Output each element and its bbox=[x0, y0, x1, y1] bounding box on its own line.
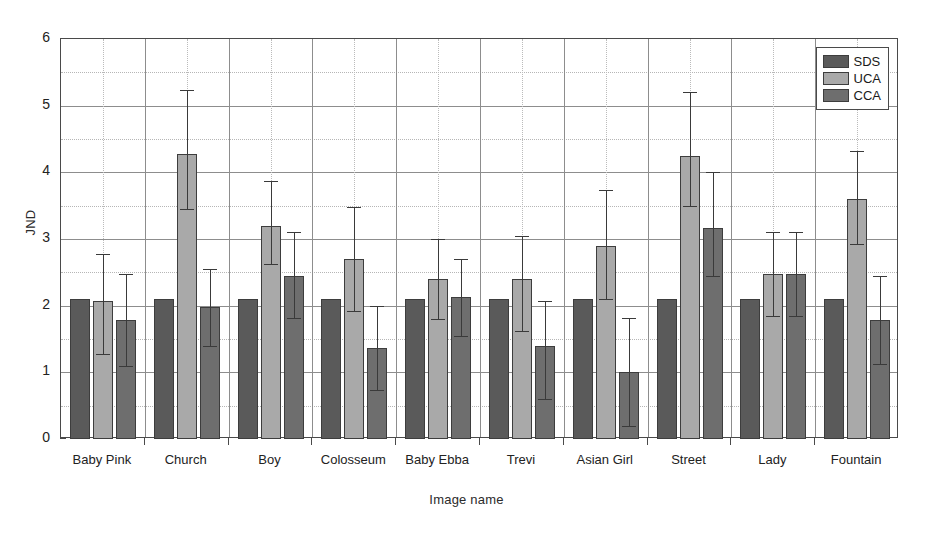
error-bar-cap-upper bbox=[264, 181, 278, 182]
error-bar-line bbox=[210, 269, 211, 346]
bar-sds bbox=[321, 299, 341, 439]
error-bar-line bbox=[545, 301, 546, 399]
error-bar-cap-upper bbox=[789, 232, 803, 233]
error-bar-cap-upper bbox=[683, 92, 697, 93]
error-bar-cap-upper bbox=[347, 207, 361, 208]
error-bar-cap-upper bbox=[454, 259, 468, 260]
error-bar-cap-lower bbox=[347, 311, 361, 312]
x-tick-mark bbox=[814, 438, 815, 445]
y-tick-label: 1 bbox=[0, 362, 50, 378]
x-tick-label: Lady bbox=[758, 452, 786, 467]
legend-swatch-cca bbox=[823, 89, 849, 102]
error-bar-cap-lower bbox=[96, 354, 110, 355]
x-tick-mark bbox=[395, 438, 396, 445]
bar-sds bbox=[70, 299, 90, 439]
x-tick-label: Trevi bbox=[507, 452, 535, 467]
x-tick-mark bbox=[730, 438, 731, 445]
error-bar-cap-upper bbox=[538, 301, 552, 302]
legend-label: UCA bbox=[854, 72, 881, 85]
error-bar-cap-lower bbox=[370, 390, 384, 391]
error-bar-cap-lower bbox=[622, 426, 636, 427]
y-tick-label: 4 bbox=[0, 162, 50, 178]
x-tick-mark bbox=[563, 438, 564, 445]
x-tick-mark bbox=[228, 438, 229, 445]
error-bar-cap-upper bbox=[119, 274, 133, 275]
error-bar-cap-lower bbox=[538, 399, 552, 400]
error-bar-line bbox=[796, 232, 797, 315]
bar-sds bbox=[405, 299, 425, 439]
legend-label: SDS bbox=[854, 55, 881, 68]
y-tick-label: 3 bbox=[0, 229, 50, 245]
legend-label: CCA bbox=[854, 89, 881, 102]
error-bar-line bbox=[187, 90, 188, 209]
y-tick-label: 2 bbox=[0, 296, 50, 312]
error-bar-line bbox=[461, 259, 462, 336]
error-bar-line bbox=[690, 92, 691, 205]
x-tick-mark bbox=[311, 438, 312, 445]
error-bar-line bbox=[522, 236, 523, 331]
error-bar-cap-lower bbox=[515, 331, 529, 332]
bar-sds bbox=[824, 299, 844, 439]
gridline-major-x bbox=[731, 39, 732, 437]
gridline-major-x bbox=[648, 39, 649, 437]
legend-item-uca: UCA bbox=[823, 70, 881, 87]
error-bar-line bbox=[103, 254, 104, 354]
error-bar-cap-lower bbox=[599, 299, 613, 300]
error-bar-line bbox=[857, 151, 858, 244]
error-bar-line bbox=[126, 274, 127, 365]
error-bar-line bbox=[773, 232, 774, 315]
error-bar-line bbox=[438, 239, 439, 319]
error-bar-cap-lower bbox=[203, 346, 217, 347]
error-bar-line bbox=[880, 276, 881, 364]
gridline-major-x bbox=[229, 39, 230, 437]
x-tick-label: Boy bbox=[258, 452, 280, 467]
x-tick-label: Baby Ebba bbox=[405, 452, 469, 467]
x-axis-label: Image name bbox=[0, 492, 933, 507]
error-bar-cap-lower bbox=[264, 264, 278, 265]
x-tick-mark bbox=[479, 438, 480, 445]
error-bar-line bbox=[713, 172, 714, 275]
error-bar-cap-lower bbox=[454, 336, 468, 337]
y-tick-label: 6 bbox=[0, 29, 50, 45]
error-bar-line bbox=[294, 232, 295, 317]
gridline-major-x bbox=[480, 39, 481, 437]
error-bar-cap-lower bbox=[873, 364, 887, 365]
error-bar-line bbox=[629, 318, 630, 426]
gridline-major-x bbox=[396, 39, 397, 437]
error-bar-cap-upper bbox=[873, 276, 887, 277]
gridline-major-x bbox=[312, 39, 313, 437]
error-bar-cap-upper bbox=[431, 239, 445, 240]
x-tick-label: Fountain bbox=[831, 452, 882, 467]
gridline-major-x bbox=[145, 39, 146, 437]
error-bar-line bbox=[377, 306, 378, 391]
legend-item-cca: CCA bbox=[823, 87, 881, 104]
figure-canvas: JND Image name 0123456 Baby PinkChurchBo… bbox=[0, 0, 933, 534]
error-bar-cap-lower bbox=[706, 276, 720, 277]
y-tick-label: 5 bbox=[0, 96, 50, 112]
x-tick-label: Colosseum bbox=[321, 452, 386, 467]
legend-item-sds: SDS bbox=[823, 53, 881, 70]
x-tick-label: Asian Girl bbox=[577, 452, 633, 467]
error-bar-cap-lower bbox=[789, 316, 803, 317]
error-bar-cap-lower bbox=[850, 244, 864, 245]
x-tick-label: Church bbox=[165, 452, 207, 467]
error-bar-cap-upper bbox=[706, 172, 720, 173]
bar-sds bbox=[657, 299, 677, 439]
legend-swatch-sds bbox=[823, 55, 849, 68]
x-tick-mark bbox=[144, 438, 145, 445]
error-bar-cap-lower bbox=[287, 318, 301, 319]
legend-box: SDSUCACCA bbox=[816, 47, 889, 110]
x-tick-label: Baby Pink bbox=[73, 452, 132, 467]
bar-sds bbox=[154, 299, 174, 439]
legend-swatch-uca bbox=[823, 72, 849, 85]
bar-sds bbox=[573, 299, 593, 439]
error-bar-line bbox=[606, 190, 607, 299]
error-bar-cap-upper bbox=[370, 306, 384, 307]
y-tick-mark bbox=[60, 438, 66, 439]
error-bar-cap-upper bbox=[515, 236, 529, 237]
bar-sds bbox=[489, 299, 509, 439]
error-bar-cap-upper bbox=[622, 318, 636, 319]
error-bar-cap-upper bbox=[180, 90, 194, 91]
error-bar-cap-lower bbox=[119, 366, 133, 367]
gridline-major-x bbox=[564, 39, 565, 437]
